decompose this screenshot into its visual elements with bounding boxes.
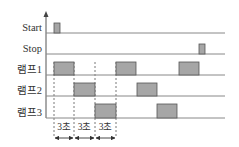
signal-label: 램프1 (17, 64, 42, 75)
signal-label: 램프3 (17, 107, 42, 118)
signal-pulse (54, 62, 74, 75)
signal-pulse (116, 62, 136, 75)
duration-annotations: 3초3초3초 (55, 122, 115, 138)
signal-row (46, 83, 225, 96)
signal-label: 램프2 (17, 85, 42, 96)
signal-pulse (157, 104, 177, 118)
signal-pulse (137, 83, 157, 96)
signal-row (46, 62, 225, 75)
duration-label: 3초 (57, 122, 71, 132)
signal-pulse (54, 23, 60, 33)
signal-rows (46, 23, 225, 118)
signal-row (46, 44, 225, 54)
timing-diagram: StartStop램프1램프2램프3 3초3초3초 (0, 0, 239, 147)
signal-pulse (95, 104, 116, 118)
duration-label: 3초 (99, 122, 113, 132)
signal-pulse (74, 83, 95, 96)
signal-labels: StartStop램프1램프2램프3 (17, 22, 42, 118)
signal-label: Start (22, 22, 42, 33)
signal-pulse (199, 44, 205, 54)
signal-row (46, 23, 225, 33)
signal-row (46, 104, 225, 118)
duration-label: 3초 (78, 122, 92, 132)
signal-label: Stop (23, 43, 42, 54)
signal-pulse (179, 62, 199, 75)
axis-arrow-icon (44, 11, 49, 17)
